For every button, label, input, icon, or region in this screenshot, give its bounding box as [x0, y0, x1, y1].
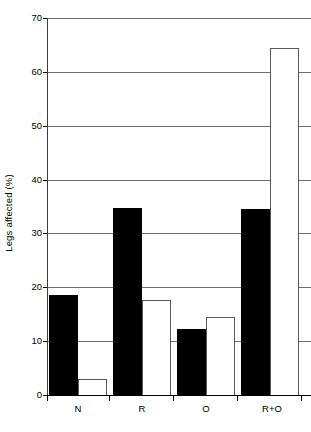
- y-axis-tick-labels: 70 60 50 40 30 20 10 0: [18, 0, 42, 432]
- bar-N-black: [49, 295, 78, 395]
- y-tick-label: 30: [20, 229, 42, 239]
- y-axis-title: Legs affected (%): [0, 0, 16, 432]
- y-tick-label: 10: [20, 336, 42, 346]
- bar-O-white: [206, 317, 235, 395]
- bar-O-black: [177, 329, 206, 395]
- x-category-label-R: R: [139, 404, 146, 414]
- y-axis-title-text: Legs affected (%): [3, 174, 14, 252]
- bar-RplusO-black: [241, 209, 270, 395]
- x-category-label-RplusO: R+O: [262, 404, 282, 414]
- y-tick-label: 0: [20, 390, 42, 400]
- bar-R-black: [113, 208, 142, 395]
- y-axis-line: [47, 18, 48, 395]
- x-tickmark-4: [301, 396, 302, 401]
- x-category-label-O: O: [202, 404, 209, 414]
- plot-area: N R O R+O: [47, 18, 311, 395]
- x-tickmark-0: [47, 396, 48, 401]
- x-axis-line: [47, 395, 311, 396]
- y-tick-label: 20: [20, 283, 42, 293]
- x-tickmark-2: [173, 396, 174, 401]
- x-tickmark-1: [109, 396, 110, 401]
- y-tick-label: 40: [20, 175, 42, 185]
- bar-R-white: [142, 300, 171, 395]
- bar-chart-figure: Legs affected (%) 70 60 50 40 30 20 10 0: [0, 0, 311, 432]
- y-tick-label: 60: [20, 67, 42, 77]
- x-category-label-N: N: [75, 404, 82, 414]
- bar-N-white: [78, 379, 107, 395]
- y-tick-label: 50: [20, 121, 42, 131]
- bar-RplusO-white: [270, 48, 299, 395]
- y-tick-label: 70: [20, 13, 42, 23]
- x-tickmark-3: [237, 396, 238, 401]
- gridline-70: [47, 18, 311, 19]
